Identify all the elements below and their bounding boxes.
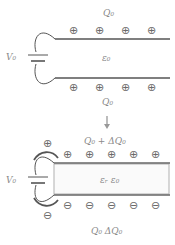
bottom-wire — [35, 157, 54, 202]
bottom-top-charge-label: Q₀ + ΔQ₀ — [84, 137, 126, 146]
plus-charge-icon: ⊕ — [147, 25, 156, 36]
plus-charge-icon: ⊕ — [147, 82, 156, 93]
bottom-medium-label: εᵣ ε₀ — [100, 176, 119, 185]
bottom-voltage-label: V₀ — [6, 176, 16, 185]
plus-charge-icon: ⊕ — [43, 138, 52, 149]
plus-charge-icon: ⊕ — [129, 149, 138, 160]
minus-charge-icon: ⊖ — [151, 200, 160, 211]
minus-charge-icon: ⊖ — [43, 210, 52, 221]
top-wire — [35, 33, 55, 84]
plus-charge-icon: ⊕ — [151, 149, 160, 160]
plus-charge-icon: ⊕ — [69, 82, 78, 93]
bottom-bottom-charge-label: Q₀ ΔQ₀ — [91, 227, 122, 236]
plus-charge-icon: ⊕ — [95, 25, 104, 36]
flow-arrow-bottom-icon — [34, 198, 58, 206]
top-medium-label: ε₀ — [102, 54, 110, 63]
plus-charge-icon: ⊕ — [95, 82, 104, 93]
minus-charge-icon: ⊖ — [107, 200, 116, 211]
transition-arrow-icon — [104, 124, 110, 129]
minus-charge-icon: ⊖ — [85, 200, 94, 211]
top-voltage-label: V₀ — [6, 53, 16, 62]
plus-charge-icon: ⊕ — [63, 149, 72, 160]
top-charge-label: Q₀ — [103, 9, 114, 18]
plus-charge-icon: ⊕ — [107, 149, 116, 160]
plus-charge-icon: ⊕ — [69, 25, 78, 36]
plus-charge-icon: ⊕ — [121, 25, 130, 36]
minus-charge-icon: ⊖ — [129, 200, 138, 211]
plus-charge-icon: ⊕ — [121, 82, 130, 93]
top-bottom-charge-label: Q₀ — [102, 98, 113, 107]
minus-charge-icon: ⊖ — [63, 200, 72, 211]
plus-charge-icon: ⊕ — [85, 149, 94, 160]
